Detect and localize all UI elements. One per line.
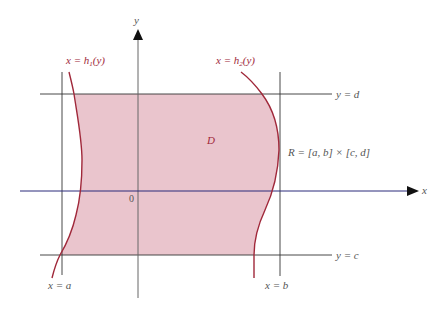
line-y-equals-d-label: y = d xyxy=(335,88,360,100)
region-d-fill xyxy=(60,94,279,255)
y-axis-arrow-icon xyxy=(133,29,143,40)
diagram-canvas: y x 0 x = h1(y) x = h2(y) D y = d y = c … xyxy=(0,0,428,310)
line-y-equals-c-label: y = c xyxy=(335,249,359,261)
x-axis-label: x xyxy=(421,184,427,196)
curve-h2-label: x = h2(y) xyxy=(215,54,255,68)
region-d-label: D xyxy=(206,134,215,146)
y-axis-label: y xyxy=(133,14,139,26)
line-x-equals-b-label: x = b xyxy=(264,279,289,291)
origin-label: 0 xyxy=(129,193,134,204)
region-diagram: y x 0 x = h1(y) x = h2(y) D y = d y = c … xyxy=(0,0,428,310)
line-x-equals-a-label: x = a xyxy=(47,279,72,291)
rectangle-r-label: R = [a, b] × [c, d] xyxy=(287,146,370,158)
x-axis-arrow-icon xyxy=(407,186,419,196)
curve-h1-label: x = h1(y) xyxy=(65,54,105,68)
